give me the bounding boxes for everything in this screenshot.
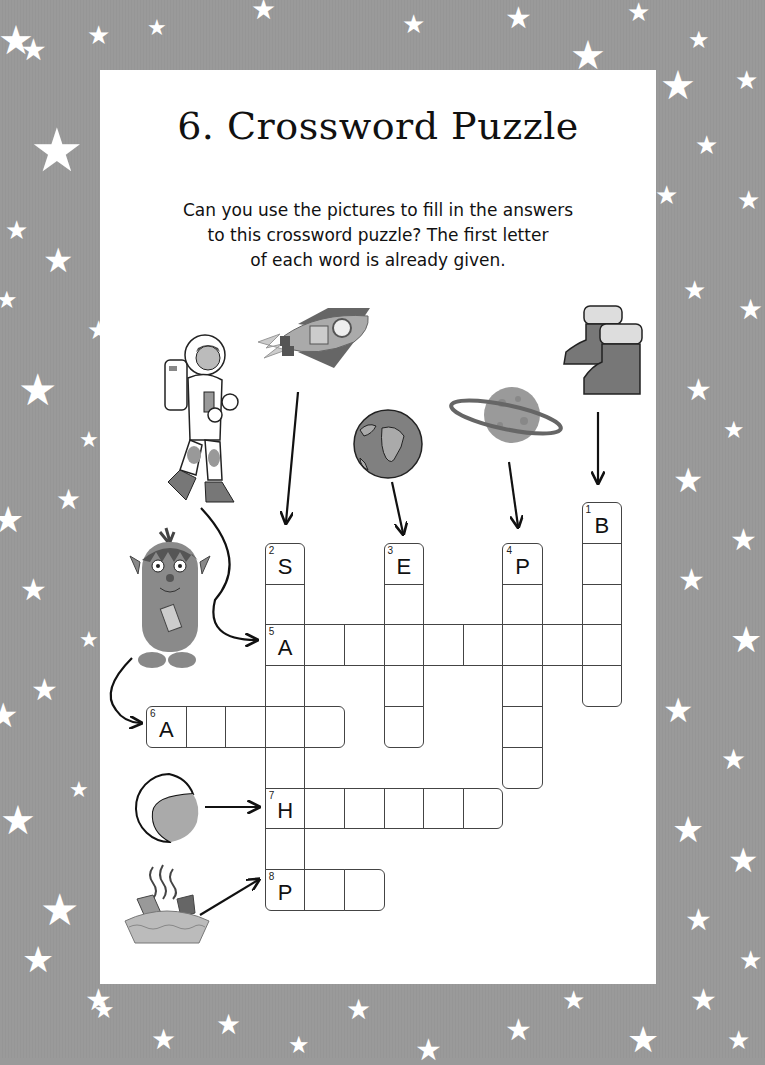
- arrow-rocket: [286, 392, 298, 522]
- crossword-cell[interactable]: 7H: [265, 788, 306, 830]
- crossword-cell[interactable]: [304, 869, 345, 911]
- crossword-cell[interactable]: [265, 828, 306, 870]
- given-letter: P: [266, 880, 305, 906]
- crossword-cell[interactable]: [265, 747, 306, 789]
- given-letter: H: [266, 798, 305, 824]
- crossword-cell[interactable]: [423, 624, 464, 666]
- given-letter: P: [503, 554, 542, 580]
- crossword-cell[interactable]: [502, 584, 543, 626]
- crossword-cell[interactable]: [502, 747, 543, 789]
- crossword-cell[interactable]: [582, 624, 623, 666]
- crossword-cell[interactable]: [384, 624, 425, 666]
- crossword-cell[interactable]: 2S: [265, 543, 306, 585]
- crossword-cell[interactable]: [265, 665, 306, 707]
- crossword-cell[interactable]: [384, 706, 425, 748]
- arrow-astronaut: [201, 508, 256, 640]
- crossword-cell[interactable]: [502, 665, 543, 707]
- crossword-cell[interactable]: [344, 624, 385, 666]
- arrow-earth: [392, 482, 403, 533]
- crossword-cell[interactable]: [502, 706, 543, 748]
- crossword-cell[interactable]: [582, 665, 623, 707]
- crossword-cell[interactable]: 8P: [265, 869, 306, 911]
- crossword-cell[interactable]: [582, 543, 623, 585]
- crossword-cell[interactable]: [344, 869, 385, 911]
- crossword-cell[interactable]: 6A: [146, 706, 187, 748]
- crossword-cell[interactable]: [542, 624, 583, 666]
- arrow-planet: [509, 462, 518, 526]
- arrow-pie: [200, 880, 258, 915]
- crossword-cell[interactable]: [384, 584, 425, 626]
- crossword-cell[interactable]: [384, 665, 425, 707]
- crossword-cell[interactable]: [463, 624, 504, 666]
- crossword-cell[interactable]: [384, 788, 425, 830]
- given-letter: E: [385, 554, 424, 580]
- crossword-cell[interactable]: [463, 788, 504, 830]
- crossword-cell[interactable]: [265, 584, 306, 626]
- given-letter: B: [583, 513, 622, 539]
- given-letter: A: [266, 635, 305, 661]
- crossword-cell[interactable]: [265, 706, 306, 748]
- arrow-alien: [111, 658, 140, 723]
- crossword-cell[interactable]: [423, 788, 464, 830]
- crossword-cell[interactable]: [186, 706, 227, 748]
- crossword-cell[interactable]: [304, 706, 345, 748]
- crossword-cell[interactable]: [582, 584, 623, 626]
- crossword-cell[interactable]: [225, 706, 266, 748]
- given-letter: S: [266, 554, 305, 580]
- crossword-cell[interactable]: [304, 788, 345, 830]
- crossword-cell[interactable]: 5A: [265, 624, 306, 666]
- crossword-cell[interactable]: 1B: [582, 502, 623, 544]
- crossword-cell[interactable]: [304, 624, 345, 666]
- crossword-cell[interactable]: [344, 788, 385, 830]
- crossword-cell[interactable]: [502, 624, 543, 666]
- crossword-cell[interactable]: 4P: [502, 543, 543, 585]
- crossword-cell[interactable]: 3E: [384, 543, 425, 585]
- given-letter: A: [147, 717, 186, 743]
